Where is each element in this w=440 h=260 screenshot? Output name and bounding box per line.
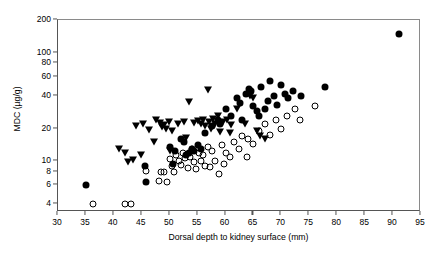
- data-point-filled-circle: [143, 179, 150, 186]
- data-point-open-circle: [267, 131, 274, 138]
- y-tick-label: 60: [42, 71, 51, 80]
- data-point-open-circle: [272, 116, 279, 123]
- x-tick-label: 35: [80, 218, 89, 227]
- x-tick-mark: [56, 211, 57, 215]
- x-tick-mark: [140, 211, 141, 215]
- data-point-filled-circle: [237, 100, 244, 107]
- data-point-filled-circle: [209, 123, 216, 130]
- data-point-filled-circle: [222, 106, 229, 113]
- data-point-filled-circle: [278, 82, 285, 89]
- data-point-open-circle: [227, 153, 234, 160]
- x-tick-mark: [392, 211, 393, 215]
- x-tick-mark: [84, 211, 85, 215]
- y-tick-label: 4: [46, 199, 51, 208]
- x-tick-label: 65: [248, 218, 257, 227]
- data-point-filled-circle: [258, 84, 265, 91]
- data-point-open-circle: [311, 103, 318, 110]
- x-tick-mark: [168, 211, 169, 215]
- y-tick-label: 20: [42, 123, 51, 132]
- y-tick-label: 40: [42, 91, 51, 100]
- data-point-open-circle: [155, 177, 162, 184]
- data-point-filled-circle: [285, 95, 292, 102]
- data-point-open-circle: [243, 153, 250, 160]
- y-tick-label: 80: [42, 58, 51, 67]
- data-point-filled-triangle-down: [150, 139, 158, 146]
- data-point-open-circle: [164, 179, 171, 186]
- data-point-filled-circle: [256, 113, 263, 120]
- y-tick-label: 200: [37, 15, 51, 24]
- data-point-filled-circle: [321, 84, 328, 91]
- x-tick-label: 75: [304, 218, 313, 227]
- data-point-open-circle: [250, 140, 257, 147]
- data-point-open-circle: [212, 158, 219, 165]
- x-tick-label: 60: [220, 218, 229, 227]
- data-point-filled-triangle-down: [227, 122, 235, 129]
- data-point-filled-circle: [228, 113, 235, 120]
- scatter-chart: 4681020406080100200 30354045505560657075…: [0, 0, 440, 260]
- data-point-open-circle: [291, 106, 298, 113]
- data-point-open-circle: [219, 142, 226, 149]
- data-point-filled-circle: [261, 106, 268, 113]
- y-tick-label: 100: [37, 47, 51, 56]
- data-point-open-circle: [200, 151, 207, 158]
- y-axis-label: MDC (µg/g): [12, 54, 22, 164]
- data-point-filled-circle: [273, 101, 280, 108]
- x-tick-label: 45: [136, 218, 145, 227]
- data-point-filled-circle: [202, 130, 209, 137]
- data-point-filled-circle: [270, 92, 277, 99]
- plot-area: [57, 19, 420, 211]
- data-point-filled-circle: [395, 30, 402, 37]
- data-point-open-circle: [221, 160, 228, 167]
- x-tick-mark: [364, 211, 365, 215]
- y-tick-label: 6: [46, 180, 51, 189]
- data-point-filled-triangle-down: [129, 157, 137, 164]
- data-point-open-circle: [278, 125, 285, 132]
- data-point-filled-triangle-down: [180, 118, 188, 125]
- x-tick-mark: [280, 211, 281, 215]
- data-markers-layer: [58, 20, 419, 210]
- y-tick-label: 8: [46, 166, 51, 175]
- x-axis-label: Dorsal depth to kidney surface (mm): [57, 232, 420, 242]
- data-point-filled-triangle-down: [145, 126, 153, 133]
- data-point-open-circle: [261, 121, 268, 128]
- x-tick-mark: [252, 211, 253, 215]
- data-point-filled-circle: [239, 116, 246, 123]
- data-point-open-circle: [161, 169, 168, 176]
- x-tick-mark: [308, 211, 309, 215]
- data-point-filled-triangle-down: [249, 95, 257, 102]
- data-point-open-circle: [209, 147, 216, 154]
- x-tick-mark: [112, 211, 113, 215]
- data-point-filled-triangle-down: [216, 129, 224, 136]
- data-point-filled-circle: [248, 88, 255, 95]
- data-point-filled-circle: [216, 121, 223, 128]
- data-point-filled-triangle-down: [168, 127, 176, 134]
- x-tick-mark: [336, 211, 337, 215]
- data-point-open-circle: [206, 164, 213, 171]
- x-tick-label: 50: [164, 218, 173, 227]
- data-point-filled-circle: [289, 88, 296, 95]
- x-tick-label: 40: [108, 218, 117, 227]
- x-tick-label: 85: [359, 218, 368, 227]
- data-point-open-circle: [143, 167, 150, 174]
- data-point-open-circle: [235, 145, 242, 152]
- data-point-open-circle: [193, 166, 200, 173]
- data-point-open-circle: [256, 127, 263, 134]
- x-tick-label: 90: [387, 218, 396, 227]
- data-point-open-circle: [297, 116, 304, 123]
- x-tick-label: 80: [331, 218, 340, 227]
- x-tick-label: 70: [276, 218, 285, 227]
- y-tick-label: 10: [42, 156, 51, 165]
- data-point-open-circle: [127, 201, 134, 208]
- x-tick-mark: [224, 211, 225, 215]
- data-point-filled-triangle-down: [185, 99, 193, 106]
- data-point-filled-triangle-down: [137, 151, 145, 158]
- data-point-open-circle: [184, 165, 191, 172]
- data-point-open-circle: [166, 155, 173, 162]
- data-point-open-circle: [89, 201, 96, 208]
- x-tick-label: 55: [192, 218, 201, 227]
- data-point-filled-triangle-down: [121, 149, 129, 156]
- data-point-filled-circle: [181, 139, 188, 146]
- data-point-filled-circle: [267, 77, 274, 84]
- data-point-filled-triangle-down: [165, 118, 173, 125]
- data-point-filled-circle: [82, 182, 89, 189]
